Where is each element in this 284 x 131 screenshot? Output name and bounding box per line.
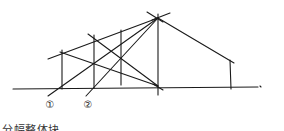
ray-1-to-apex <box>48 18 158 96</box>
ground-tick <box>260 86 261 87</box>
perspective-sketch: ①② <box>0 0 284 131</box>
circled-label-2: ② <box>84 99 93 110</box>
caption-text: 分幅整体块 <box>2 121 60 131</box>
diag-1-to-ground <box>60 52 158 86</box>
ground-line <box>13 87 258 89</box>
right-vertical <box>230 60 231 89</box>
ray-2-to-apex <box>86 18 158 96</box>
circled-label-1: ① <box>46 99 55 110</box>
right-slope <box>158 18 234 63</box>
roof-line-upper <box>48 18 158 59</box>
